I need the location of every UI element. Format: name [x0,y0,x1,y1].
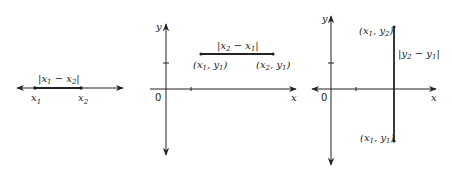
distance-label: |x1 − x2| [38,73,80,86]
point-x1-y1-label: (x1, y1) [360,132,395,145]
point-x1-y2-label: (x1, y2) [359,25,394,38]
point-x2 [79,86,83,90]
point-x2-y1 [271,52,274,55]
point-x1-label: x1 [31,92,41,106]
distance-diagrams: |x1 − x2| x1 x2 y x 0 |x2 − x1| (x1, y1)… [0,0,452,178]
point-x2-y1-label: (x2, y1) [256,59,291,72]
origin-label: 0 [155,92,161,103]
point-x1-y1-label: (x1, y1) [193,59,228,72]
panel-number-line: |x1 − x2| x1 x2 [17,73,123,106]
point-x1 [33,86,37,90]
origin-label: 0 [321,92,327,103]
panel-horizontal-segment: y x 0 |x2 − x1| (x1, y1) (x2, y1) [150,21,297,155]
y-axis-label: y [321,13,328,24]
point-x1-y1 [199,52,202,55]
y-axis-label: y [155,21,162,32]
panel-vertical-segment: y x 0 |y2 − y1| (x1, y2) (x1, y1) [312,13,440,165]
x-axis-label: x [431,92,437,103]
x-axis-label: x [291,92,297,103]
vertical-distance-label: |y2 − y1| [398,48,440,61]
horizontal-distance-label: |x2 − x1| [217,40,259,53]
point-x2-label: x2 [78,92,89,106]
